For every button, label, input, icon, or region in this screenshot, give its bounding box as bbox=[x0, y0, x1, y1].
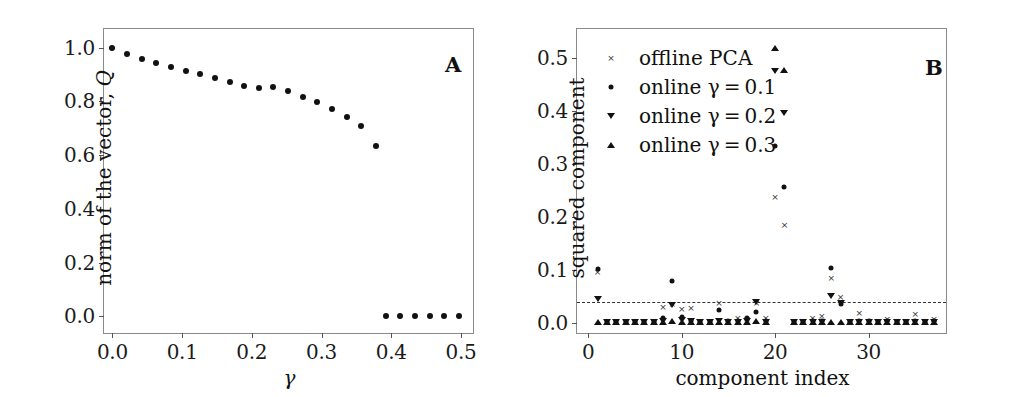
data-point: × bbox=[752, 299, 760, 307]
data-point bbox=[837, 319, 845, 325]
data-point: × bbox=[603, 318, 611, 326]
data-point: × bbox=[715, 299, 723, 307]
legend-item[interactable]: online γ = 0.2 bbox=[599, 101, 776, 130]
panel-b-legend: ×offline PCAonline γ = 0.1online γ = 0.2… bbox=[599, 43, 776, 159]
axis-tick bbox=[252, 333, 253, 338]
data-point bbox=[874, 319, 882, 325]
panel-b-plot-frame: ××××××××××××××××××××××××××××××××××××× 0.… bbox=[576, 28, 947, 334]
marker-dot bbox=[609, 84, 614, 89]
data-point bbox=[735, 319, 740, 324]
data-point bbox=[696, 319, 704, 325]
data-point bbox=[734, 319, 742, 325]
data-point bbox=[373, 143, 379, 149]
data-point bbox=[650, 319, 658, 325]
axis-tick-label: 1.0 bbox=[64, 36, 95, 60]
data-point: × bbox=[696, 317, 704, 325]
legend-item[interactable]: online γ = 0.3 bbox=[599, 130, 776, 159]
data-point: × bbox=[724, 317, 732, 325]
data-point bbox=[801, 319, 806, 324]
data-point bbox=[743, 319, 751, 325]
data-point bbox=[124, 51, 130, 57]
axis-tick-label: 0.5 bbox=[537, 46, 568, 70]
data-point bbox=[790, 319, 798, 325]
axis-tick bbox=[391, 333, 392, 338]
data-point bbox=[883, 319, 891, 325]
data-point bbox=[911, 319, 919, 325]
data-point bbox=[745, 316, 750, 321]
data-point bbox=[715, 318, 723, 324]
data-point bbox=[734, 319, 742, 325]
data-point bbox=[921, 319, 929, 325]
data-point bbox=[799, 319, 807, 325]
legend-marker-tri-down bbox=[599, 106, 639, 126]
data-point: × bbox=[743, 315, 751, 323]
data-point bbox=[763, 319, 768, 324]
data-point: × bbox=[780, 221, 788, 229]
axis-tick-label: 0.4 bbox=[64, 197, 95, 221]
data-point bbox=[893, 319, 901, 325]
data-point: × bbox=[659, 303, 667, 311]
data-point bbox=[622, 319, 630, 325]
data-point bbox=[642, 320, 647, 325]
data-point: × bbox=[911, 310, 919, 318]
data-point bbox=[622, 319, 630, 325]
data-point: × bbox=[622, 318, 630, 326]
data-point: × bbox=[855, 309, 863, 317]
data-point: × bbox=[883, 315, 891, 323]
data-point: × bbox=[865, 317, 873, 325]
data-point bbox=[614, 320, 619, 325]
data-point bbox=[650, 319, 658, 325]
data-point bbox=[762, 319, 770, 325]
data-point bbox=[594, 319, 602, 325]
data-point bbox=[197, 71, 203, 77]
data-point bbox=[913, 319, 918, 324]
data-point: × bbox=[650, 317, 658, 325]
data-point bbox=[397, 313, 403, 319]
data-point bbox=[595, 267, 600, 272]
axis-tick bbox=[461, 333, 462, 338]
data-point bbox=[754, 310, 759, 315]
data-point bbox=[300, 94, 306, 100]
data-point: × bbox=[921, 317, 929, 325]
data-point bbox=[623, 320, 628, 325]
panel-a-x-axis-title: γ bbox=[104, 366, 475, 390]
data-point bbox=[256, 85, 262, 91]
panel-b-letter: B bbox=[925, 55, 943, 80]
data-point bbox=[687, 318, 695, 324]
panel-a-y-axis-title-symbol: Q bbox=[92, 70, 116, 86]
legend-item[interactable]: online γ = 0.1 bbox=[599, 72, 776, 101]
data-point bbox=[441, 313, 447, 319]
data-point bbox=[659, 318, 667, 324]
data-point: × bbox=[762, 314, 770, 322]
axis-tick bbox=[182, 333, 183, 338]
data-point bbox=[846, 319, 854, 325]
data-point bbox=[689, 319, 694, 324]
legend-label: online γ = 0.1 bbox=[639, 75, 776, 99]
data-point bbox=[819, 319, 824, 324]
data-point bbox=[922, 319, 927, 324]
data-point bbox=[706, 319, 714, 325]
data-point bbox=[790, 319, 798, 325]
data-point bbox=[594, 296, 602, 302]
data-point bbox=[865, 319, 873, 325]
panel-a: 0.00.20.40.60.81.0 0.00.10.20.30.40.5 no… bbox=[0, 0, 506, 397]
data-point bbox=[855, 319, 863, 325]
panel-b: ××××××××××××××××××××××××××××××××××××× 0.… bbox=[506, 0, 1012, 397]
data-point bbox=[724, 319, 732, 325]
panel-b-y-axis-title: squared component bbox=[565, 25, 589, 331]
axis-tick-label: 0.6 bbox=[64, 143, 95, 167]
data-point bbox=[329, 106, 335, 112]
axis-tick bbox=[775, 333, 776, 338]
data-point bbox=[847, 319, 852, 324]
data-point bbox=[782, 185, 787, 190]
axis-tick-label: 30 bbox=[856, 340, 881, 364]
data-point bbox=[894, 319, 899, 324]
data-point bbox=[875, 319, 880, 324]
data-point bbox=[791, 320, 796, 325]
data-point bbox=[651, 319, 656, 324]
legend-item[interactable]: ×offline PCA bbox=[599, 43, 776, 72]
data-point bbox=[921, 319, 929, 325]
panel-b-x-axis-title: component index bbox=[577, 366, 948, 390]
figure-canvas: 0.00.20.40.60.81.0 0.00.10.20.30.40.5 no… bbox=[0, 0, 1012, 397]
axis-tick bbox=[112, 333, 113, 338]
